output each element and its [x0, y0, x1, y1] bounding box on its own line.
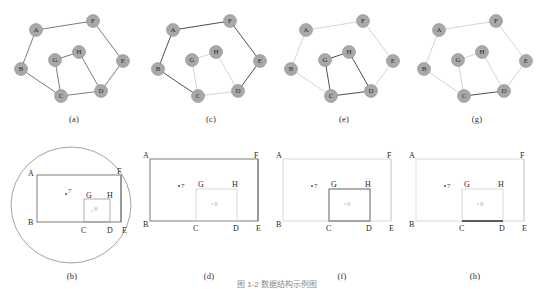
vertex-E-label: E	[522, 224, 527, 233]
node-G-label: G	[52, 56, 57, 64]
node-F-label: F	[494, 17, 498, 25]
panel-c-caption: (c)	[145, 114, 277, 124]
node-F-label: F	[228, 17, 232, 25]
edge-B-C	[424, 69, 464, 96]
edge-A-F	[306, 21, 363, 30]
graph-g-nodes: A B C D E F G H	[418, 15, 533, 103]
edge-A-F	[36, 21, 93, 30]
edge-E-F	[230, 21, 260, 61]
vertex-H-label: H	[365, 180, 371, 189]
vertex-B-label: B	[409, 220, 414, 229]
node-H-label: H	[479, 48, 484, 56]
vertex-E-label: E	[122, 226, 127, 235]
panel-g: A B C D E F G H (g)	[411, 6, 543, 126]
outer-ellipse	[11, 147, 131, 263]
vertex-F-label: F	[387, 151, 392, 160]
outer-rectangle	[283, 159, 391, 221]
vertex-A-label: A	[409, 151, 415, 160]
node-E-label: E	[258, 57, 262, 65]
node-F-label: F	[361, 17, 365, 25]
edge-E-F	[496, 21, 526, 61]
panel-e-caption: (e)	[278, 114, 410, 124]
vertex-G-label: G	[464, 180, 470, 189]
node-A-label: A	[33, 26, 38, 34]
point-marker-7-dot	[311, 185, 313, 187]
panel-b: A B C D E F G H 7 8 (b)	[4, 143, 140, 289]
region-f: A B C D E F G H 7 8	[274, 143, 410, 273]
node-G-label: G	[455, 56, 460, 64]
point-marker-8-dot	[477, 203, 479, 205]
node-G-label: G	[189, 56, 194, 64]
vertex-C-label: C	[326, 224, 331, 233]
vertex-G-label: G	[86, 191, 92, 200]
node-F-label: F	[91, 17, 95, 25]
node-E-label: E	[524, 57, 528, 65]
panel-a: A B C D E F G H (a)	[8, 6, 140, 126]
vertex-E-label: E	[389, 224, 394, 233]
node-B-label: B	[19, 65, 24, 73]
edge-E-F	[93, 21, 123, 61]
vertex-B-label: B	[143, 220, 148, 229]
region-b: A B C D E F G H 7 8	[4, 143, 140, 273]
vertex-A-label: A	[28, 169, 34, 178]
panel-d: A B C D E F G H 7 8 (d)	[141, 143, 277, 289]
panel-e: A B C D E F G H (e)	[278, 6, 410, 126]
vertex-B-label: B	[28, 218, 33, 227]
vertex-D-label: D	[107, 226, 113, 235]
point-marker-7-label: 7	[447, 182, 451, 190]
point-marker-7-label: 7	[314, 182, 318, 190]
vertex-A-label: A	[276, 151, 282, 160]
vertex-F-label: F	[254, 151, 259, 160]
point-marker-7-label: 7	[68, 187, 72, 195]
point-marker-7-dot	[444, 185, 446, 187]
graph-a-nodes: A B C D E F G H	[15, 15, 130, 103]
panel-f: A B C D E F G H 7 8 (f)	[274, 143, 410, 289]
point-marker-7-dot	[178, 185, 180, 187]
point-marker-7-label: 7	[181, 182, 185, 190]
graph-c: A B C D E F G H	[145, 6, 277, 110]
node-E-label: E	[121, 57, 125, 65]
point-marker-8-label: 8	[214, 200, 218, 208]
vertex-F-label: F	[520, 151, 525, 160]
panel-h: A B C D E F G H 7 8 (h)	[407, 143, 543, 289]
node-D-label: D	[98, 87, 103, 95]
edge-A-F	[439, 21, 496, 30]
vertex-H-label: H	[498, 180, 504, 189]
point-marker-7-dot	[65, 193, 67, 195]
outer-rectangle	[150, 159, 258, 221]
node-A-label: A	[170, 26, 175, 34]
panel-a-caption: (a)	[8, 114, 140, 124]
point-marker-8-dot	[344, 203, 346, 205]
vertex-E-label: E	[256, 224, 261, 233]
node-B-label: B	[156, 65, 161, 73]
graph-c-nodes: A B C D E F G H	[152, 15, 267, 103]
node-H-label: H	[213, 48, 218, 56]
vertex-H-label: H	[107, 191, 113, 200]
node-D-label: D	[501, 87, 506, 95]
point-marker-8-dot	[211, 203, 213, 205]
graph-e-nodes: A B C D E F G H	[285, 15, 400, 103]
node-A-label: A	[436, 26, 441, 34]
vertex-G-label: G	[198, 180, 204, 189]
graph-e: A B C D E F G H	[278, 6, 410, 110]
node-H-label: H	[76, 48, 81, 56]
point-marker-8-dot	[91, 210, 93, 212]
point-marker-8-label: 8	[94, 205, 98, 213]
node-A-label: A	[303, 26, 308, 34]
figure-caption: 图 1-2 数据结构示例图	[0, 278, 554, 289]
node-D-label: D	[368, 87, 373, 95]
panel-c: A B C D E F G H (c)	[145, 6, 277, 126]
region-d: A B C D E F G H 7 8	[141, 143, 277, 273]
vertex-G-label: G	[331, 180, 337, 189]
edge-E-F	[363, 21, 393, 61]
point-marker-8-label: 8	[347, 200, 351, 208]
node-C-label: C	[196, 92, 201, 100]
node-C-label: C	[59, 92, 64, 100]
vertex-C-label: C	[193, 224, 198, 233]
outer-rectangle	[416, 159, 524, 221]
panel-g-caption: (g)	[411, 114, 543, 124]
edge-A-F	[173, 21, 230, 30]
node-H-label: H	[346, 48, 351, 56]
node-G-label: G	[322, 56, 327, 64]
region-h: A B C D E F G H 7 8	[407, 143, 543, 273]
